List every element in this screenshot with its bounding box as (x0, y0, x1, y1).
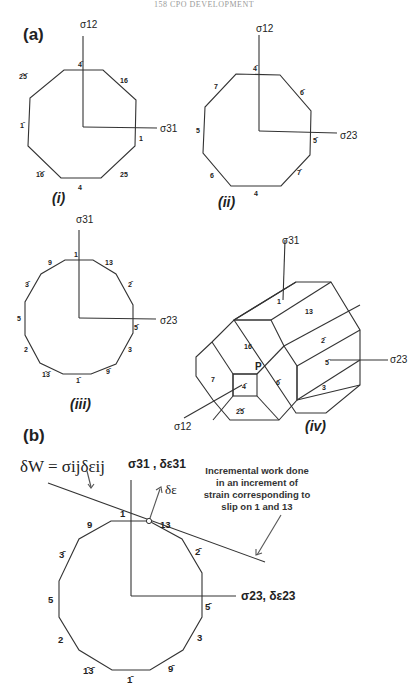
svg-text:2: 2 (58, 634, 63, 645)
svg-text:1̄: 1̄ (20, 122, 26, 129)
svg-text:in an increment of: in an increment of (216, 477, 299, 488)
caption-i: (i) (52, 190, 66, 206)
svg-text:16: 16 (120, 77, 128, 84)
svg-text:5̄: 5̄ (134, 324, 140, 331)
svg-text:4: 4 (78, 184, 82, 191)
svg-text:3̄: 3̄ (25, 281, 31, 288)
prism-iv (184, 240, 388, 420)
svg-text:σ23: σ23 (160, 315, 178, 326)
svg-text:1: 1 (139, 135, 143, 142)
svg-text:3: 3 (128, 346, 132, 353)
svg-text:5̄: 5̄ (313, 137, 319, 144)
svg-text:σ12: σ12 (174, 421, 192, 432)
svg-text:7: 7 (211, 376, 215, 383)
svg-text:2: 2 (24, 346, 28, 353)
svg-text:3: 3 (322, 384, 326, 391)
svg-text:slip on 1 and 13: slip on 1 and 13 (221, 501, 292, 512)
svg-text:2̄5̄: 2̄5̄ (236, 408, 246, 415)
axis-i-vertical: σ12 (80, 19, 98, 30)
svg-text:7: 7 (214, 83, 218, 90)
panel-a-label: (a) (23, 25, 44, 44)
svg-text:6̄: 6̄ (276, 379, 282, 386)
svg-text:5: 5 (48, 594, 54, 605)
svg-text:1̄: 1̄ (76, 377, 82, 384)
panel-b-label: (b) (23, 426, 45, 445)
svg-text:2̄: 2̄ (195, 546, 202, 557)
svg-text:1: 1 (74, 251, 78, 258)
svg-text:1̄: 1̄ (127, 674, 134, 685)
svg-text:13: 13 (105, 259, 113, 266)
svg-text:13: 13 (160, 519, 171, 530)
svg-text:2̄: 2̄ (321, 337, 327, 344)
svg-text:1̄6̄: 1̄6̄ (36, 171, 46, 178)
svg-text:3: 3 (197, 632, 202, 643)
svg-text:σ31: σ31 (282, 235, 300, 246)
svg-text:strain corresponding to: strain corresponding to (204, 489, 311, 500)
svg-text:2̄: 2̄ (128, 281, 134, 288)
svg-text:9̄: 9̄ (168, 663, 175, 674)
svg-text:4̄: 4̄ (242, 383, 248, 390)
svg-text:1: 1 (277, 298, 281, 305)
axis-b-vertical: σ31 , δε31 (128, 457, 186, 471)
svg-text:Incremental work done: Incremental work done (205, 465, 308, 476)
caption-ii: (ii) (218, 194, 235, 210)
svg-text:σ31: σ31 (76, 214, 94, 225)
octagon-ii (203, 74, 311, 186)
axis-i-horizontal: σ31 (160, 123, 178, 134)
yield-vertex-marker (146, 518, 151, 523)
svg-text:σ23: σ23 (390, 354, 408, 365)
svg-text:σ23: σ23 (340, 130, 358, 141)
svg-text:7̄: 7̄ (297, 169, 303, 176)
svg-text:σ12: σ12 (256, 23, 274, 34)
svg-text:16: 16 (244, 343, 252, 350)
work-equation: δW = σijδεij (20, 457, 105, 476)
svg-text:4̄: 4̄ (253, 65, 259, 72)
svg-text:5̄: 5̄ (205, 601, 212, 612)
caption-iv: (iv) (305, 418, 326, 434)
axis-b-horizontal: σ23, δε23 (241, 589, 296, 603)
svg-text:6: 6 (210, 172, 214, 179)
svg-text:9̄: 9̄ (106, 368, 112, 375)
yield-surface-figure: (a) (b) σ12 σ31 4̄ 16 1 25 4 1̄6̄ 1̄ 2̄5… (0, 0, 408, 697)
svg-text:5: 5 (196, 127, 200, 134)
strain-increment-label: δε (165, 482, 177, 497)
svg-text:25: 25 (120, 171, 128, 178)
svg-text:5: 5 (17, 315, 21, 322)
svg-text:2̄5̄: 2̄5̄ (19, 73, 29, 80)
svg-text:13: 13 (305, 308, 313, 315)
svg-text:6̄: 6̄ (300, 89, 306, 96)
svg-text:1̄3̄: 1̄3̄ (83, 665, 96, 676)
svg-text:1̄3̄: 1̄3̄ (42, 371, 52, 378)
svg-text:9: 9 (87, 519, 92, 530)
svg-text:9: 9 (48, 259, 52, 266)
svg-text:1: 1 (120, 508, 126, 519)
svg-text:4: 4 (254, 190, 258, 197)
svg-text:3̄: 3̄ (59, 549, 66, 560)
caption-iii: (iii) (70, 396, 91, 412)
octagon-i (28, 70, 136, 178)
point-p: P (255, 361, 262, 372)
